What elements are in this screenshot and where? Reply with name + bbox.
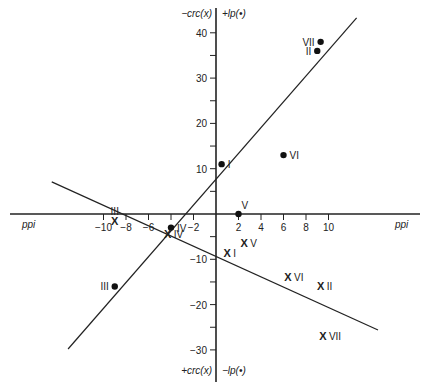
y-tick-label: 20 — [196, 118, 208, 129]
y-tick-label: −10 — [190, 254, 207, 265]
y-tick-label: −20 — [190, 300, 207, 311]
crc-point-label: II — [327, 281, 333, 292]
crc-point-label: IV — [174, 229, 184, 240]
y-tick-label: −30 — [190, 345, 207, 356]
xlabel-right: ppi — [394, 219, 409, 230]
lp-point-label: I — [228, 159, 231, 170]
y-tick-label: 10 — [196, 164, 208, 175]
scatter-chart: −10−8−6−224681040302010−10−20−30 IIIIIII… — [0, 0, 427, 385]
lp-point-II — [314, 48, 320, 54]
ylabel-bottom-left: +crc(x) — [181, 365, 212, 376]
ylabel-top-left: −crc(x) — [181, 8, 212, 19]
x-tick-label: −10 — [95, 222, 112, 233]
x-tick-label: 10 — [323, 222, 335, 233]
lp-point-I — [218, 161, 224, 167]
regression-line — [52, 182, 378, 330]
axis-labels: −crc(x) +lp(•) +crc(x) −lp(•) ppi ppi — [21, 8, 409, 376]
crc-point-I: X — [224, 247, 232, 259]
crc-point-VII: X — [319, 330, 327, 342]
lp-point-III — [112, 283, 118, 289]
x-tick-label: −8 — [120, 222, 132, 233]
crc-point-label: VII — [329, 331, 341, 342]
crc-point-IV: X — [164, 228, 172, 240]
x-tick-label: 8 — [303, 222, 309, 233]
regression-lines — [52, 18, 378, 349]
y-tick-label: 30 — [196, 73, 208, 84]
lp-point-VI — [280, 152, 286, 158]
regression-line — [68, 18, 357, 349]
lp-point-V — [235, 211, 241, 217]
y-tick-label: 40 — [196, 28, 208, 39]
crc-point-II: X — [317, 280, 325, 292]
crc-point-VI: X — [284, 271, 292, 283]
axes: −10−8−6−224681040302010−10−20−30 — [10, 8, 420, 382]
lp-point-VII — [317, 39, 323, 45]
crc-point-label: III — [111, 206, 119, 217]
ylabel-bottom-right: −lp(•) — [222, 365, 246, 376]
x-tick-label: 4 — [258, 222, 264, 233]
crc-point-V: X — [240, 237, 248, 249]
crc-point-label: V — [250, 238, 257, 249]
x-tick-label: −2 — [188, 222, 200, 233]
xlabel-left: ppi — [21, 219, 36, 230]
crc-point-label: VI — [294, 272, 303, 283]
crc-point-label: I — [233, 248, 236, 259]
lp-point-label: III — [100, 281, 108, 292]
x-tick-label: 6 — [281, 222, 287, 233]
ylabel-top-right: +lp(•) — [222, 8, 246, 19]
lp-point-label: VI — [290, 150, 299, 161]
lp-point-label: V — [242, 200, 249, 211]
lp-point-label: VII — [302, 37, 314, 48]
x-tick-label: 2 — [236, 222, 242, 233]
